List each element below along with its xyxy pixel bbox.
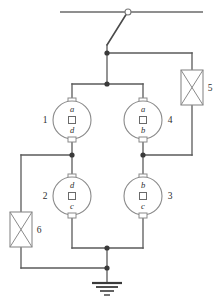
circuit-diagram: 5 6 a d 1 a b 4 xyxy=(0,0,221,305)
junction-node-lower-tie xyxy=(104,245,109,250)
junction-node-ground-return xyxy=(104,265,109,270)
earth-ground-icon xyxy=(92,283,122,295)
machine-2-center-square-icon xyxy=(69,193,76,200)
machine-1-bottom-terminal-icon xyxy=(68,137,76,142)
machine-3[interactable]: b c xyxy=(124,174,162,218)
machine-1-top-label: a xyxy=(70,104,74,114)
machine-4-bottom-label: b xyxy=(141,125,145,135)
junction-node-right-mid xyxy=(140,152,145,157)
machine-4[interactable]: a b xyxy=(124,98,162,142)
machine-1-number: 1 xyxy=(43,115,48,125)
junction-node-left-mid xyxy=(69,152,74,157)
reactor-5-number: 5 xyxy=(208,83,213,93)
machine-3-center-square-icon xyxy=(140,193,147,200)
machine-1-center-square-icon xyxy=(69,117,76,124)
machine-4-top-label: a xyxy=(141,104,145,114)
machine-3-bottom-label: c xyxy=(141,201,145,211)
machine-2-bottom-terminal-icon xyxy=(68,213,76,218)
reactor-5[interactable] xyxy=(181,70,203,105)
machine-1[interactable]: a d xyxy=(53,98,91,142)
machine-3-number: 3 xyxy=(168,191,173,201)
switch-blade[interactable] xyxy=(107,13,127,45)
machine-4-number: 4 xyxy=(168,115,173,125)
machine-4-center-square-icon xyxy=(140,117,147,124)
reactor-6-number: 6 xyxy=(37,225,42,235)
switch-pivot-icon[interactable] xyxy=(125,9,131,15)
machine-3-bottom-terminal-icon xyxy=(139,213,147,218)
junction-node-upper-tie xyxy=(104,81,109,86)
machine-3-top-label: b xyxy=(141,180,145,190)
machine-4-bottom-terminal-icon xyxy=(139,137,147,142)
circuit-canvas: 5 6 a d 1 a b 4 xyxy=(0,0,221,305)
machine-2-number: 2 xyxy=(43,191,48,201)
machine-2[interactable]: d c xyxy=(53,174,91,218)
reactor-6[interactable] xyxy=(10,212,32,247)
machine-2-bottom-label: c xyxy=(70,201,74,211)
junction-node-upper-feeder xyxy=(104,50,109,55)
